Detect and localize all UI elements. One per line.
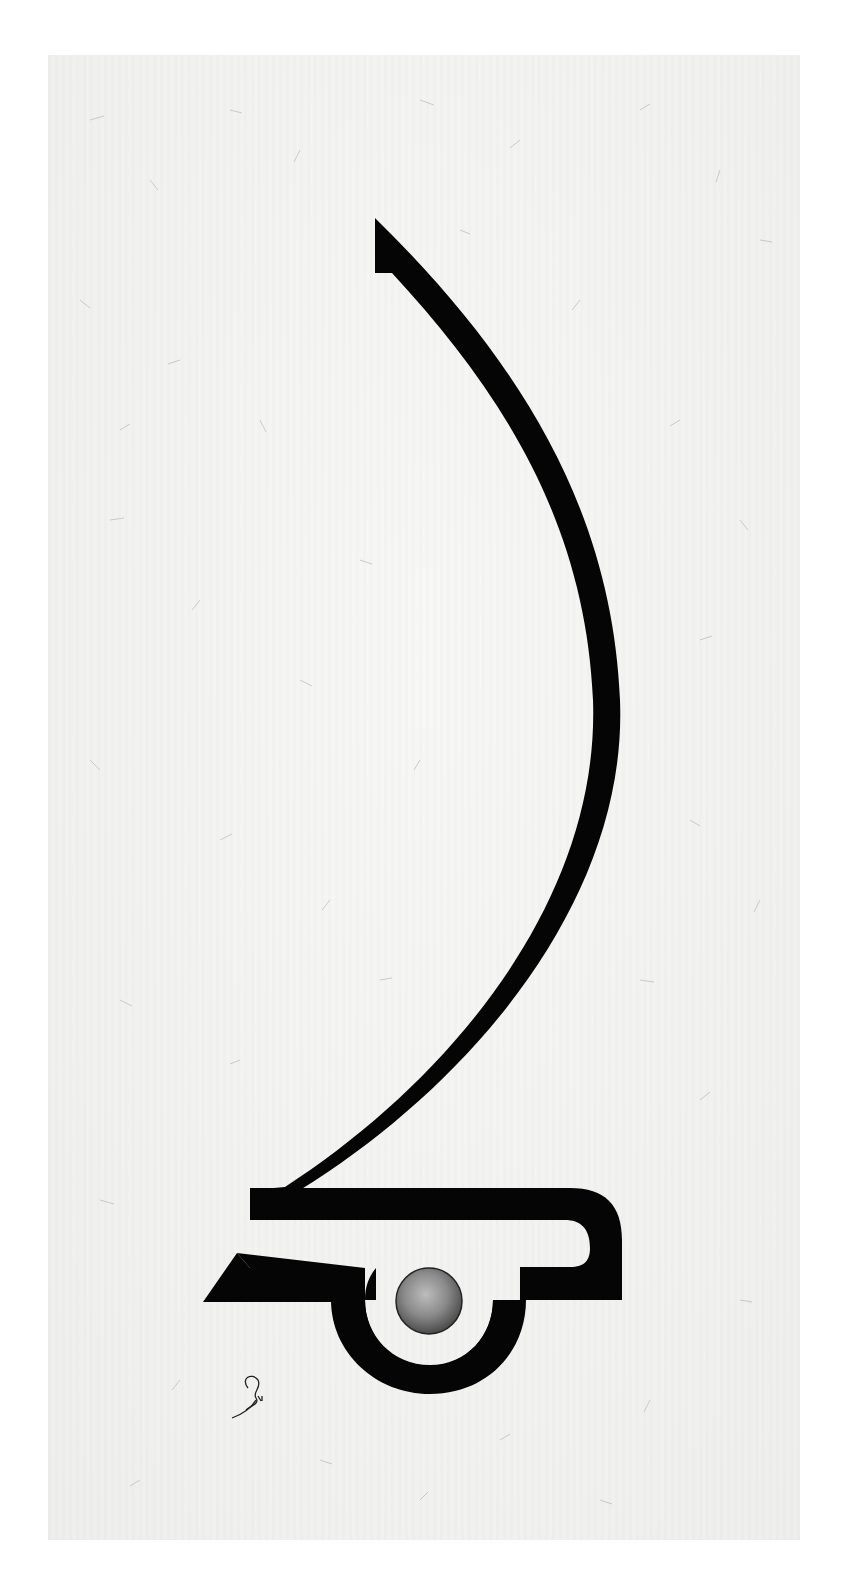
arc-stroke	[250, 218, 620, 1218]
calligraphy-artwork	[0, 0, 848, 1588]
caption	[0, 1576, 848, 1588]
metallic-circle	[396, 1268, 462, 1334]
artist-signature-icon	[232, 1376, 262, 1418]
